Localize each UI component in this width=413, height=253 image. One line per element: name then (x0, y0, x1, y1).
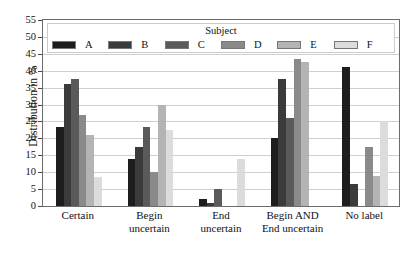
legend-swatch-icon (277, 41, 301, 49)
bar (79, 115, 87, 206)
y-axis-tick: 50 (26, 32, 37, 43)
bar (301, 62, 309, 206)
chart-figure: Distribution in % 0510152025303540455055… (0, 0, 413, 253)
bar (350, 184, 358, 206)
bar (199, 199, 207, 206)
legend-swatch-icon (52, 41, 76, 49)
legend-items: ABCDEF (52, 38, 390, 52)
legend-item-a[interactable]: A (52, 40, 108, 51)
bar (373, 176, 381, 206)
legend-swatch-icon (334, 41, 358, 49)
y-axis-tick: 25 (26, 116, 37, 127)
bar (64, 84, 72, 206)
y-axis-tick: 45 (26, 49, 37, 60)
y-axis-tick: 35 (26, 82, 37, 93)
bar (286, 118, 294, 206)
legend-label: A (85, 40, 93, 51)
legend-swatch-icon (221, 41, 245, 49)
bar (278, 79, 286, 206)
y-axis-tick: 15 (26, 150, 37, 161)
bar (380, 121, 388, 206)
bar (56, 127, 64, 206)
legend-label: F (367, 40, 373, 51)
bar (365, 147, 373, 206)
legend-label: D (254, 40, 262, 51)
legend-item-d[interactable]: D (221, 40, 277, 51)
bar (214, 189, 222, 206)
y-axis-tick: 40 (26, 65, 37, 76)
legend-item-b[interactable]: B (108, 40, 164, 51)
bar (143, 127, 151, 206)
y-axis-tick: 20 (26, 133, 37, 144)
legend-item-f[interactable]: F (334, 40, 390, 51)
legend-swatch-icon (165, 41, 189, 49)
bar (158, 105, 166, 206)
x-axis-tick: No label (312, 209, 413, 222)
bar (71, 79, 79, 206)
bar (207, 203, 215, 206)
bar (128, 159, 136, 206)
bar (166, 130, 174, 206)
y-axis-tick: 5 (31, 184, 36, 195)
bar (135, 147, 143, 206)
legend-label: E (310, 40, 316, 51)
legend-title: Subject (48, 25, 394, 36)
bar (86, 135, 94, 206)
bar (150, 172, 158, 206)
legend-label: B (141, 40, 148, 51)
legend-item-e[interactable]: E (277, 40, 333, 51)
y-axis-tick: 30 (26, 99, 37, 110)
bar (237, 159, 245, 206)
bar (271, 138, 279, 206)
legend-swatch-icon (108, 41, 132, 49)
legend: Subject ABCDEF (47, 23, 395, 53)
x-axis-tick-labels: CertainBeginuncertainEnduncertainBegin A… (42, 209, 400, 253)
y-axis-tick: 10 (26, 167, 37, 178)
legend-label: C (198, 40, 205, 51)
legend-item-c[interactable]: C (165, 40, 221, 51)
bar (294, 59, 302, 206)
bar (342, 67, 350, 206)
plot-area: Subject ABCDEF (42, 19, 400, 207)
y-axis-tick: 55 (26, 15, 37, 26)
bar (94, 177, 102, 206)
